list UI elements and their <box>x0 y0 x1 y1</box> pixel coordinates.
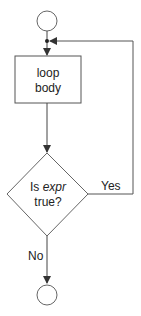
start-node <box>37 11 57 31</box>
no-label: No <box>28 249 44 263</box>
decision-label-line1: Is expr <box>30 180 67 194</box>
decision-label-line2: true? <box>34 195 62 209</box>
yes-label: Yes <box>101 179 121 193</box>
loop-body-label-line2: body <box>35 81 61 95</box>
end-node <box>37 285 57 305</box>
loop-body-label-line1: loop <box>37 66 60 80</box>
flowchart: loop body Is expr true? Yes No <box>0 0 141 316</box>
decision-expr: expr <box>43 180 67 194</box>
junction-dot <box>45 39 49 43</box>
decision-prefix: Is <box>30 180 43 194</box>
